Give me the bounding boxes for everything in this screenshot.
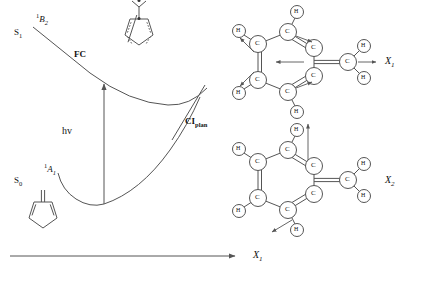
figure-svg (0, 0, 432, 283)
s1-potential-curve (33, 27, 207, 105)
franck-condon-label: FC (74, 50, 86, 59)
atom-label-c: C (345, 176, 350, 183)
atom-label-h: H (294, 8, 298, 14)
atom-label-c: C (311, 72, 316, 79)
atom-label-h: H (236, 27, 240, 33)
figure-root: S1 1B2 S0 1A1 FC CIplan hv X1 X1 X2 C C … (0, 0, 432, 283)
atom-label-h: H (361, 42, 365, 48)
conical-intersection-label: CIplan (185, 117, 207, 128)
atom-label-c: C (311, 162, 316, 169)
s0-potential-curve (58, 97, 200, 205)
hv-label: hv (62, 126, 72, 136)
state-label-s1: S1 (14, 28, 22, 39)
atom-label-h: H (361, 192, 365, 198)
atom-label-h: H (294, 226, 298, 232)
atom-label-h: H (294, 108, 298, 114)
conical-intersection-crossing (172, 85, 205, 140)
atom-label-c: C (285, 206, 290, 213)
molecule-excited-fulvene (125, 0, 153, 45)
atom-label-c: C (285, 28, 290, 35)
atom-label-h: H (294, 126, 298, 132)
atom-label-c: C (255, 40, 260, 47)
atom-label-h: H (361, 74, 365, 80)
mode-label-x1: X1 (385, 56, 395, 69)
atom-label-c: C (311, 44, 316, 51)
state-label-s0: S0 (14, 176, 22, 187)
axis-label-x1: X1 (253, 250, 263, 263)
atom-label-c: C (255, 194, 260, 201)
atom-label-c: C (285, 88, 290, 95)
atom-label-c: C (345, 58, 350, 65)
term-symbol-a1: 1A1 (44, 163, 56, 176)
atom-label-h: H (361, 160, 365, 166)
molecule-mode-x1 (233, 6, 377, 119)
atom-label-c: C (255, 76, 260, 83)
atom-label-h: H (236, 207, 240, 213)
term-symbol-b2: 1B2 (36, 13, 48, 26)
atom-label-h: H (236, 89, 240, 95)
molecule-ground-fulvene (29, 190, 57, 228)
atom-label-c: C (311, 190, 316, 197)
atom-label-h: H (236, 145, 240, 151)
mode-label-x2: X2 (385, 175, 395, 188)
atom-label-c: C (255, 158, 260, 165)
atom-label-c: C (285, 146, 290, 153)
